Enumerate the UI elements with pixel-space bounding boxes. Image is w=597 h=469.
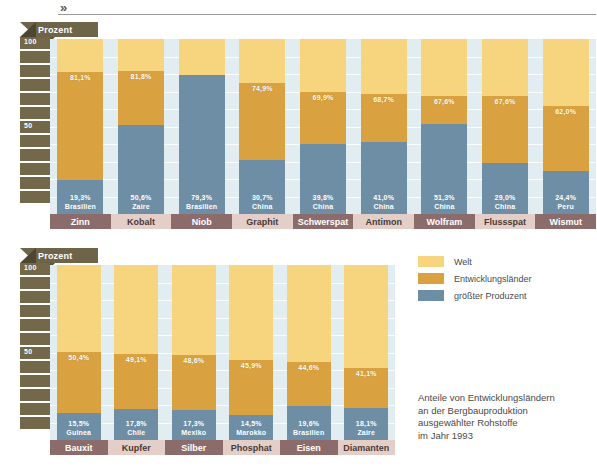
bar-slot: 41,1%18,1%Zaire xyxy=(338,265,396,440)
producer-label: 51,3%China xyxy=(421,193,467,211)
segment-groesster-produzent: 24,4%Peru xyxy=(543,171,589,214)
segment-welt xyxy=(229,265,273,360)
caption-line-4: im Jahr 1993 xyxy=(418,430,555,443)
stacked-bar[interactable]: 81,8%50,6%Zaire xyxy=(118,39,164,214)
category-label-wismut[interactable]: Wismut xyxy=(535,214,596,229)
producer-label: 29,0%China xyxy=(482,193,528,211)
caption-line-2: an der Bergbauproduktion xyxy=(418,405,555,418)
producer-label: 19,3%Brasilien xyxy=(57,193,103,211)
producer-country-label: Peru xyxy=(543,202,589,211)
stacked-bar[interactable]: 49,1%17,8%Chile xyxy=(114,265,158,440)
producer-label: 17,3%Mexiko xyxy=(172,419,216,437)
bar-slot: 44,6%19,6%Brasilien xyxy=(280,265,338,440)
segment-value-label: 81,1% xyxy=(57,74,103,81)
category-label-bauxit[interactable]: Bauxit xyxy=(50,440,108,455)
axis-step xyxy=(20,305,50,319)
category-label-graphit[interactable]: Graphit xyxy=(232,214,293,229)
producer-country-label: Marokko xyxy=(229,428,273,437)
producer-label: 30,7%China xyxy=(239,193,285,211)
producer-country-label: China xyxy=(300,202,346,211)
producer-label: 15,5%Guinea xyxy=(57,419,101,437)
segment-welt xyxy=(172,265,216,355)
segment-welt xyxy=(344,265,388,368)
producer-label: 39,8%China xyxy=(300,193,346,211)
segment-groesster-produzent: 18,1%Zaire xyxy=(344,408,388,440)
header-divider xyxy=(58,14,596,15)
producer-label: 18,1%Zaire xyxy=(344,419,388,437)
category-label-eisen[interactable]: Eisen xyxy=(280,440,338,455)
producer-value-label: 18,1% xyxy=(344,419,388,428)
segment-welt xyxy=(57,265,101,352)
axis-step xyxy=(20,417,50,431)
producer-country-label: Brasilien xyxy=(287,428,331,437)
bar-slot: 48,6%17,3%Mexiko xyxy=(165,265,223,440)
segment-entwicklungslaender: 67,6% xyxy=(482,96,528,164)
segment-value-label: 50,4% xyxy=(57,354,101,361)
stacked-bar[interactable]: 67,6%29,0%China xyxy=(482,39,528,214)
segment-value-label: 74,9% xyxy=(239,85,285,92)
stacked-bar[interactable]: 44,6%19,6%Brasilien xyxy=(287,265,331,440)
segment-value-label: 44,6% xyxy=(287,364,331,371)
segment-value-label: 48,6% xyxy=(172,357,216,364)
legend-swatch-welt xyxy=(418,256,444,267)
segment-welt xyxy=(239,39,285,83)
category-label-flussspat[interactable]: Flussspat xyxy=(475,214,536,229)
category-label-phosphat[interactable]: Phosphat xyxy=(223,440,281,455)
stacked-bar[interactable]: 62,0%24,4%Peru xyxy=(543,39,589,214)
segment-value-label: 81,8% xyxy=(118,73,164,80)
producer-country-label: Brasilien xyxy=(57,202,103,211)
stacked-bar[interactable]: 81,1%19,3%Brasilien xyxy=(57,39,103,214)
producer-value-label: 79,3% xyxy=(179,193,225,202)
category-label-silber[interactable]: Silber xyxy=(165,440,223,455)
segment-welt xyxy=(287,265,331,362)
segment-value-label: 67,6% xyxy=(421,98,467,105)
y-tick-label: 100 xyxy=(24,264,37,271)
category-label-kupfer[interactable]: Kupfer xyxy=(108,440,166,455)
producer-label: 19,6%Brasilien xyxy=(287,419,331,437)
producer-value-label: 51,3% xyxy=(421,193,467,202)
segment-value-label: 45,9% xyxy=(229,362,273,369)
axis-step xyxy=(20,191,50,205)
stacked-bar[interactable]: 74,9%30,7%China xyxy=(239,39,285,214)
axis-step xyxy=(20,93,50,107)
segment-groesster-produzent: 30,7%China xyxy=(239,160,285,214)
segment-groesster-produzent: 17,8%Chile xyxy=(114,409,158,440)
segment-entwicklungslaender: 74,9% xyxy=(239,83,285,160)
category-label-kobalt[interactable]: Kobalt xyxy=(111,214,172,229)
bar-slot: 74,9%30,7%China xyxy=(232,39,293,214)
category-label-zinn[interactable]: Zinn xyxy=(50,214,111,229)
axis-step xyxy=(20,361,50,375)
bar-slot: 68,7%41,0%China xyxy=(353,39,414,214)
stacked-bar[interactable]: 41,1%18,1%Zaire xyxy=(344,265,388,440)
category-label-diamanten[interactable]: Diamanten xyxy=(338,440,396,455)
segment-entwicklungslaender: 81,8% xyxy=(118,71,164,126)
axis-title-prozent-bottom: Prozent xyxy=(20,248,98,263)
stacked-bar[interactable]: 68,7%41,0%China xyxy=(361,39,407,214)
segment-entwicklungslaender: 62,0% xyxy=(543,106,589,172)
plot-area-top: 81,1%19,3%Brasilien81,8%50,6%Zaire79,6%7… xyxy=(50,39,596,214)
stacked-bar[interactable]: 69,9%39,8%China xyxy=(300,39,346,214)
stacked-bar[interactable]: 48,6%17,3%Mexiko xyxy=(172,265,216,440)
producer-value-label: 14,5% xyxy=(229,419,273,428)
category-label-wolfram[interactable]: Wolfram xyxy=(414,214,475,229)
producer-value-label: 39,8% xyxy=(300,193,346,202)
stacked-bar[interactable]: 67,6%51,3%China xyxy=(421,39,467,214)
producer-value-label: 29,0% xyxy=(482,193,528,202)
category-label-niob[interactable]: Niob xyxy=(171,214,232,229)
stacked-bar[interactable]: 79,6%79,3%Brasilien xyxy=(179,39,225,214)
category-label-antimon[interactable]: Antimon xyxy=(353,214,414,229)
segment-entwicklungslaender: 67,6% xyxy=(421,96,467,125)
axis-step xyxy=(20,177,50,191)
producer-country-label: Brasilien xyxy=(179,202,225,211)
segment-groesster-produzent: 50,6%Zaire xyxy=(118,125,164,214)
category-label-schwerspat[interactable]: Schwerspat xyxy=(293,214,354,229)
stacked-bar[interactable]: 50,4%15,5%Guinea xyxy=(57,265,101,440)
stacked-bar[interactable]: 45,9%14,5%Marokko xyxy=(229,265,273,440)
producer-label: 79,3%Brasilien xyxy=(179,193,225,211)
segment-welt xyxy=(57,39,103,72)
producer-value-label: 19,6% xyxy=(287,419,331,428)
y-tick-label: 50 xyxy=(24,348,32,355)
bar-slot: 49,1%17,8%Chile xyxy=(108,265,166,440)
segment-entwicklungslaender: 48,6% xyxy=(172,355,216,410)
segment-value-label: 67,6% xyxy=(482,98,528,105)
